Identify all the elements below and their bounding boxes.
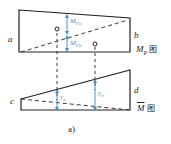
mpa-label: MPa xyxy=(70,18,81,26)
diagram-canvas xyxy=(0,0,171,144)
mbar-diagonal-dashed xyxy=(21,99,130,110)
centroid-marker-a xyxy=(55,27,59,31)
label-c: c xyxy=(10,97,14,106)
label-b: b xyxy=(134,31,139,40)
label-d: d xyxy=(134,86,139,95)
label-a: a xyxy=(8,35,13,44)
mpb-label: MPb xyxy=(70,40,81,48)
ya-label: ya xyxy=(60,94,66,102)
mp-diagram-caption: MP 图 xyxy=(136,45,157,56)
centroid-marker-b xyxy=(93,42,97,46)
figure-caption: a) xyxy=(68,124,75,134)
yb-label: yb xyxy=(98,90,104,98)
mbar-diagram-caption: M 图 xyxy=(137,104,155,113)
mbar-diagram-shape xyxy=(21,70,130,110)
